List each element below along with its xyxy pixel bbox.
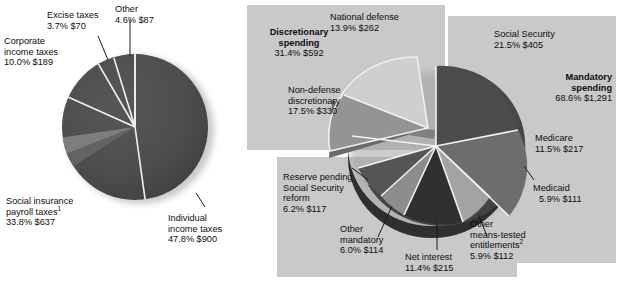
footnote-marker-1: 1: [58, 205, 62, 212]
label-net-interest: Net interest 11.4% $215: [405, 252, 453, 273]
label-reserve-pending-ss-reform: Reserve pending Social Security reform 6…: [283, 172, 352, 214]
label-individual-income-taxes: Individual income taxes 47.8% $900: [168, 213, 222, 245]
label-excise-taxes: Excise taxes 3.7% $70: [47, 10, 99, 31]
label-other-means-tested-entitlements: Other means-tested entitlements2 5.9% $1…: [470, 219, 526, 261]
figure-canvas: Other 4.6% $87 Excise taxes 3.7% $70 Cor…: [0, 0, 618, 283]
label-mandatory-spending: Mandatory spending 68.6% $1,291: [496, 72, 612, 104]
label-medicare: Medicare 11.5% $217: [535, 133, 583, 154]
leader-excise: [98, 36, 108, 60]
label-medicaid: Medicaid 5.9% $111: [533, 183, 582, 204]
revenues-pie-slices: [60, 54, 208, 200]
label-corporate-income-taxes: Corporate income taxes 10.0% $189: [4, 36, 58, 68]
leader-individual: [196, 193, 205, 207]
label-other-mandatory: Other mandatory 6.0% $114: [340, 224, 383, 256]
label-non-defense-discretionary: Non-defense discretionary 17.5% $330: [288, 85, 341, 117]
label-social-security: Social Security 21.5% $405: [494, 29, 555, 50]
label-national-defense: National defense 13.9% $262: [330, 12, 399, 33]
label-social-insurance-payroll-taxes: Social insurance payroll taxes1 33.8% $6…: [6, 196, 73, 228]
label-other: Other 4.6% $87: [115, 4, 154, 25]
footnote-marker-2: 2: [520, 238, 524, 245]
